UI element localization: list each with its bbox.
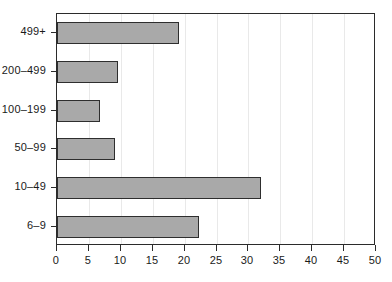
x-axis-label-7: 35 (264, 254, 294, 266)
x-axis-label-1: 5 (73, 254, 103, 266)
gridline (344, 14, 345, 244)
gridline (89, 14, 90, 244)
x-axis-label-8: 40 (296, 254, 326, 266)
gridline (121, 14, 122, 244)
bar-499- (57, 22, 179, 44)
y-axis-label-3: 50–99 (14, 141, 46, 153)
x-axis-label-2: 10 (105, 254, 135, 266)
bar-10-49 (57, 177, 261, 199)
x-axis-tick (247, 245, 248, 251)
x-axis-tick (88, 245, 89, 251)
gridline (217, 14, 218, 244)
x-axis-label-10: 50 (360, 254, 390, 266)
x-axis-tick (279, 245, 280, 251)
y-axis-label-5: 6–9 (27, 219, 46, 231)
x-axis-label-0: 0 (41, 254, 71, 266)
y-axis-tick (51, 71, 56, 72)
y-axis-label-0: 499+ (20, 25, 46, 37)
x-axis-tick (311, 245, 312, 251)
gridline (185, 14, 186, 244)
gridline (153, 14, 154, 244)
y-axis-tick (51, 226, 56, 227)
y-axis-label-2: 100–199 (2, 103, 46, 115)
y-axis-tick (51, 110, 56, 111)
x-axis-tick (56, 245, 57, 251)
y-axis-tick (51, 187, 56, 188)
bar-chart: 499+200–499100–19950–9910–496–9 05101520… (0, 0, 392, 282)
x-axis-tick (184, 245, 185, 251)
gridline (312, 14, 313, 244)
gridline (280, 14, 281, 244)
x-axis-tick (216, 245, 217, 251)
y-axis-tick (51, 32, 56, 33)
bar-100-199 (57, 100, 100, 122)
x-axis-label-3: 15 (137, 254, 167, 266)
bar-50-99 (57, 138, 115, 160)
y-axis-label-4: 10–49 (14, 180, 46, 192)
x-axis-tick (375, 245, 376, 251)
bar-6-9 (57, 216, 199, 238)
x-axis-label-4: 20 (169, 254, 199, 266)
plot-area (56, 13, 375, 245)
x-axis-label-6: 30 (232, 254, 262, 266)
x-axis-tick (343, 245, 344, 251)
x-axis-label-9: 45 (328, 254, 358, 266)
x-axis-tick (152, 245, 153, 251)
x-axis-tick (120, 245, 121, 251)
gridline (248, 14, 249, 244)
x-axis-label-5: 25 (201, 254, 231, 266)
bar-200-499 (57, 61, 118, 83)
y-axis-label-1: 200–499 (2, 64, 46, 76)
y-axis-tick (51, 148, 56, 149)
